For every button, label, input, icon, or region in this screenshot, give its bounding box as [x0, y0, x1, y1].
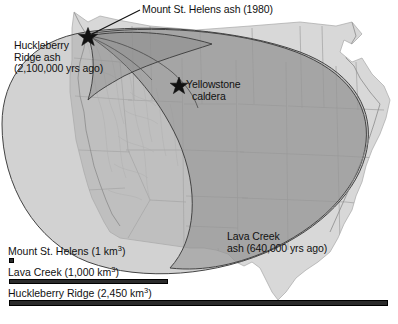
huckleberry-line-2: Ridge ash [14, 51, 60, 63]
legend-label-mount-st-helens: Mount St. Helens (1 km3) [8, 245, 125, 257]
legend-msh-suffix: ) [122, 245, 126, 257]
yellowstone-line-1: Yellowstone [186, 78, 241, 90]
lava-creek-ash-label: Lava Creek ash (640,000 yrs ago) [227, 231, 327, 254]
legend-msh-text: Mount St. Helens (1 km [8, 245, 118, 257]
legend-hr-suffix: ) [148, 287, 152, 299]
ashfall-map-figure: Mount St. Helens ash (1980) Huckleberry … [0, 0, 398, 324]
legend-hr-text: Huckleberry Ridge (2,450 km [8, 287, 144, 299]
legend-bar-lava-creek [9, 279, 168, 284]
legend-bar-huckleberry-ridge [9, 300, 388, 306]
yellowstone-line-2: caldera [186, 90, 241, 102]
legend-lc-text: Lava Creek (1,000 km [8, 266, 111, 278]
lava-creek-line-1: Lava Creek [227, 230, 280, 242]
yellowstone-caldera-label: Yellowstone caldera [186, 78, 241, 102]
huckleberry-line-3: (2,100,000 yrs ago) [14, 62, 103, 74]
legend-label-huckleberry-ridge: Huckleberry Ridge (2,450 km3) [8, 287, 152, 299]
huckleberry-ridge-ash-label: Huckleberry Ridge ash (2,100,000 yrs ago… [14, 40, 103, 75]
legend-lc-suffix: ) [115, 266, 119, 278]
huckleberry-line-1: Huckleberry [14, 39, 69, 51]
legend-bar-mount-st-helens [9, 258, 14, 263]
lava-creek-line-2: ash (640,000 yrs ago) [227, 242, 327, 254]
legend-label-lava-creek: Lava Creek (1,000 km3) [8, 266, 119, 278]
mount-st-helens-callout-label: Mount St. Helens ash (1980) [142, 4, 273, 16]
